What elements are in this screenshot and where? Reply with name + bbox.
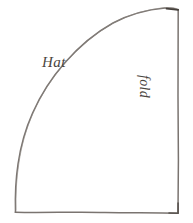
hat-label: Hat [42, 55, 66, 70]
hat-pattern-diagram: Hat fold [0, 0, 193, 223]
bottom-edge-line [15, 212, 178, 213]
pattern-drawing [0, 0, 193, 223]
bottom-right-corner-accent [169, 203, 178, 213]
apex-corner-accent [167, 9, 179, 10]
fold-label: fold [137, 75, 151, 98]
hat-curve-texture [16, 7, 178, 210]
hat-curve-line [15, 8, 177, 212]
